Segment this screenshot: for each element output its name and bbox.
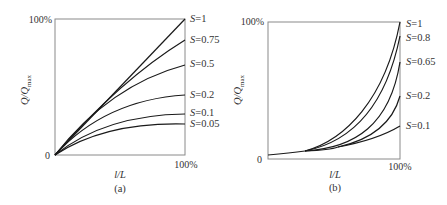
chart-a-legend-s05: S=0.5 — [190, 58, 214, 69]
chart-b-legend-s08: S=0.8 — [406, 32, 430, 43]
chart-b: 100% 0 100% l/L (b) Q/Qmax S=1 S=0.8 S=0… — [232, 16, 436, 194]
chart-b-legend-s01: S=0.1 — [406, 120, 430, 131]
chart-a-legend-s005: S=0.05 — [190, 118, 220, 129]
chart-b-frame — [268, 22, 400, 159]
chart-a-legend-s1: S=1 — [190, 13, 206, 24]
curve-b-s065 — [305, 62, 400, 151]
chart-b-y-tick-top: 100% — [241, 16, 264, 27]
chart-b-legend-s1: S=1 — [406, 18, 422, 29]
figure: 100% 0 100% l/L (a) Q/Qmax S=1 S=0.75 S=… — [0, 0, 447, 205]
chart-b-x-label: l/L — [329, 169, 341, 180]
chart-b-legend-s065: S=0.65 — [406, 56, 436, 67]
chart-b-legend-s02: S=0.2 — [406, 90, 430, 101]
curve-b-s1 — [305, 22, 400, 151]
chart-b-caption: (b) — [329, 182, 342, 194]
curve-b-s02 — [305, 96, 400, 151]
chart-a-y-label: Q/Qmax — [19, 74, 33, 105]
curve-a-s1 — [55, 19, 185, 155]
curve-b-s01 — [338, 126, 400, 147]
chart-a-y-tick-zero: 0 — [45, 150, 50, 161]
chart-a-caption: (a) — [114, 183, 126, 195]
curve-a-s005 — [55, 124, 185, 155]
chart-a-legend-s075: S=0.75 — [190, 34, 220, 45]
chart-b-y-label: Q/Qmax — [232, 74, 246, 105]
curve-b-tail — [268, 151, 305, 155]
svg-text:Q/Qmax: Q/Qmax — [19, 74, 33, 105]
chart-a-legend-s01: S=0.1 — [190, 107, 214, 118]
chart-a-x-label: l/L — [114, 169, 126, 180]
chart-a: 100% 0 100% l/L (a) Q/Qmax S=1 S=0.75 S=… — [19, 13, 220, 195]
chart-a-x-tick-right: 100% — [174, 159, 197, 170]
chart-b-y-tick-zero: 0 — [257, 154, 262, 165]
chart-a-legend-s02: S=0.2 — [190, 89, 214, 100]
chart-b-x-tick-right: 100% — [388, 161, 411, 172]
svg-text:Q/Qmax: Q/Qmax — [232, 74, 246, 105]
chart-a-y-tick-top: 100% — [29, 14, 52, 25]
curve-a-s02 — [55, 95, 185, 155]
